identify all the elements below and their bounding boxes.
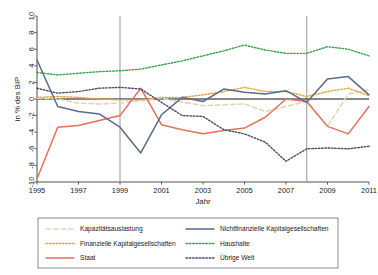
y-axis-tick-label: 2 [27,80,36,84]
chart-figure: -10-8-6-4-202468101995199719992001200320… [0,0,378,275]
series-line-5 [37,45,369,75]
x-axis-tick-label: 1995 [29,186,45,195]
y-axis-tick-label: -6 [27,146,36,153]
y-axis-tick-label: -4 [27,129,36,136]
y-axis-title: in % des BIP [13,77,22,122]
y-axis-tick-label: 10 [27,12,36,20]
x-axis-title: Jahr [195,197,211,206]
x-axis-tick-label: 2001 [153,186,169,195]
x-axis-tick-label: 2007 [278,186,294,195]
y-axis-tick-label: 4 [27,64,36,68]
y-axis-tick-label: -8 [27,162,36,169]
series-line-4 [37,60,369,153]
x-axis-tick-label: 2011 [361,186,377,195]
x-axis-tick-label: 2005 [236,186,252,195]
y-axis-tick-label: 6 [27,47,36,51]
x-axis-tick-label: 1997 [70,186,86,195]
legend-label-right-2: Haushalte [220,240,250,247]
x-axis-tick-label: 1999 [112,186,128,195]
legend-label-left-1: Kapazitätsauslastung [80,225,143,233]
line-chart: -10-8-6-4-202468101995199719992001200320… [0,0,378,275]
legend-label-left-3: Staat [80,254,96,261]
legend-label-right-1: Nichtfinanzielle Kapitalgesellschaften [220,225,329,233]
y-axis-tick-label: 0 [27,97,36,101]
x-axis-tick-label: 2003 [195,186,211,195]
y-axis-tick-label: -2 [27,112,36,119]
legend-label-right-3: Übrige Welt [220,254,254,262]
legend-label-left-2: Finanzielle Kapitalgesellschaften [80,240,176,248]
x-axis-tick-label: 2009 [319,186,335,195]
y-axis-tick-label: 8 [27,31,36,35]
